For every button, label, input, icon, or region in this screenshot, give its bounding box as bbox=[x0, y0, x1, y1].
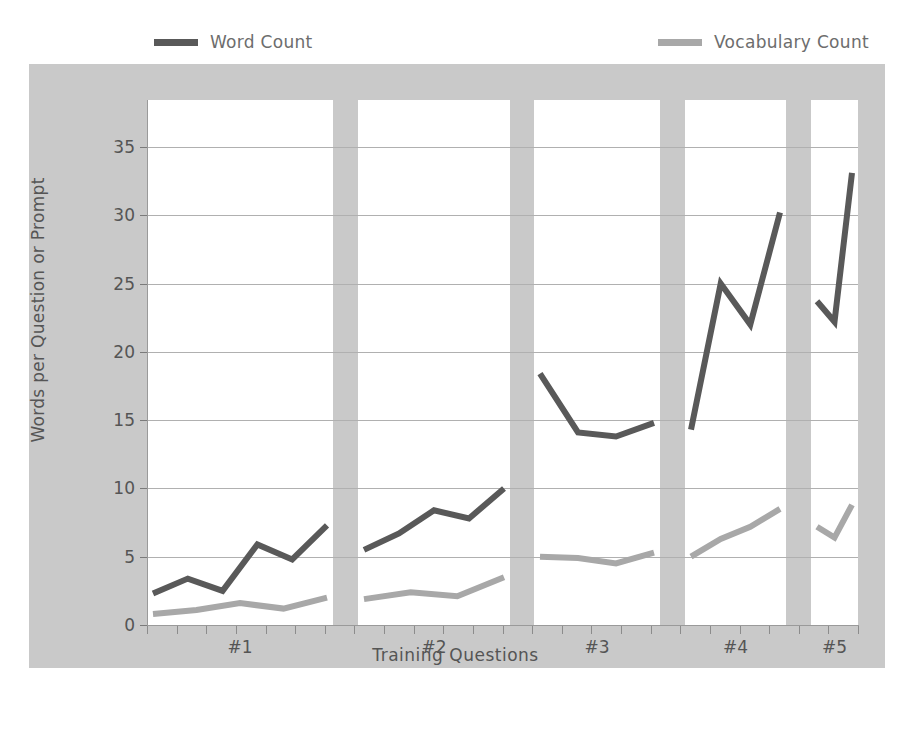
y-axis-title: Words per Question or Prompt bbox=[28, 120, 48, 500]
x-tick-mark bbox=[562, 625, 563, 634]
x-tick-label-group-1: #1 bbox=[227, 637, 252, 657]
x-tick-label-group-4: #4 bbox=[723, 637, 748, 657]
x-tick-mark bbox=[532, 625, 533, 634]
x-tick-mark bbox=[799, 625, 800, 634]
x-tick-mark bbox=[236, 625, 237, 634]
series-line-vocabulary-count-panel-5 bbox=[817, 505, 852, 538]
x-tick-mark bbox=[621, 625, 622, 634]
legend-item-vocabulary-count[interactable]: Vocabulary Count bbox=[658, 32, 869, 52]
y-tick-label-35: 35 bbox=[113, 137, 135, 157]
y-tick-label-0: 0 bbox=[124, 615, 135, 635]
y-tick-mark-35 bbox=[140, 147, 147, 148]
x-tick-mark bbox=[740, 625, 741, 634]
legend-label-vocabulary-count: Vocabulary Count bbox=[714, 32, 869, 52]
x-tick-mark bbox=[295, 625, 296, 634]
x-tick-label-group-2: #2 bbox=[421, 637, 446, 657]
y-tick-label-25: 25 bbox=[113, 274, 135, 294]
y-tick-label-15: 15 bbox=[113, 410, 135, 430]
x-tick-label-group-5: #5 bbox=[822, 637, 847, 657]
series-line-vocabulary-count-panel-4 bbox=[691, 509, 780, 557]
series-line-word-count-panel-3 bbox=[540, 374, 654, 437]
legend-item-word-count[interactable]: Word Count bbox=[154, 32, 313, 52]
x-tick-mark bbox=[680, 625, 681, 634]
x-tick-mark bbox=[828, 625, 829, 634]
x-tick-label-group-3: #3 bbox=[584, 637, 609, 657]
x-tick-mark bbox=[769, 625, 770, 634]
line-swatch-icon bbox=[154, 39, 198, 46]
series-layer bbox=[147, 100, 858, 626]
x-tick-mark bbox=[414, 625, 415, 634]
y-tick-mark-20 bbox=[140, 352, 147, 353]
series-line-vocabulary-count-panel-2 bbox=[364, 577, 504, 599]
series-line-vocabulary-count-panel-1 bbox=[153, 598, 327, 614]
y-tick-label-10: 10 bbox=[113, 478, 135, 498]
y-tick-mark-15 bbox=[140, 420, 147, 421]
y-axis-line bbox=[147, 100, 148, 626]
x-tick-mark bbox=[443, 625, 444, 634]
x-axis-title: Training Questions bbox=[0, 645, 911, 665]
y-tick-label-20: 20 bbox=[113, 342, 135, 362]
chart-root: Word Count Vocabulary Count Words per Qu… bbox=[0, 0, 911, 736]
y-tick-mark-5 bbox=[140, 557, 147, 558]
x-tick-mark bbox=[266, 625, 267, 634]
x-axis-line bbox=[147, 625, 859, 626]
x-tick-mark bbox=[147, 625, 148, 634]
chart-legend: Word Count Vocabulary Count bbox=[0, 32, 911, 58]
y-tick-mark-25 bbox=[140, 284, 147, 285]
legend-label-word-count: Word Count bbox=[210, 32, 313, 52]
x-tick-mark bbox=[325, 625, 326, 634]
y-tick-mark-10 bbox=[140, 488, 147, 489]
x-tick-mark bbox=[591, 625, 592, 634]
y-tick-label-5: 5 bbox=[124, 547, 135, 567]
x-tick-mark bbox=[503, 625, 504, 634]
series-line-word-count-panel-2 bbox=[364, 488, 504, 550]
x-tick-mark bbox=[651, 625, 652, 634]
series-svg bbox=[147, 100, 858, 626]
y-tick-label-30: 30 bbox=[113, 205, 135, 225]
series-line-word-count-panel-1 bbox=[153, 525, 327, 593]
line-swatch-icon bbox=[658, 39, 702, 46]
y-tick-mark-0 bbox=[140, 625, 147, 626]
series-line-word-count-panel-5 bbox=[817, 173, 852, 322]
x-tick-mark bbox=[354, 625, 355, 634]
x-tick-mark bbox=[384, 625, 385, 634]
x-tick-mark bbox=[177, 625, 178, 634]
x-tick-mark bbox=[710, 625, 711, 634]
x-tick-mark bbox=[858, 625, 859, 634]
y-tick-mark-30 bbox=[140, 215, 147, 216]
clipped-header-text bbox=[96, 0, 796, 7]
x-tick-mark bbox=[206, 625, 207, 634]
series-line-word-count-panel-4 bbox=[691, 213, 780, 430]
x-tick-mark bbox=[473, 625, 474, 634]
series-line-vocabulary-count-panel-3 bbox=[540, 553, 654, 564]
